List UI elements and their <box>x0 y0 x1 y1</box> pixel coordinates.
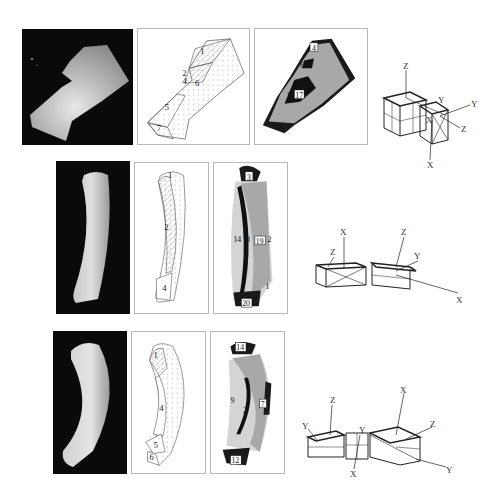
axis-label: Z <box>403 61 409 71</box>
region-label: 2 <box>268 235 272 244</box>
region-label: 17 <box>295 91 303 100</box>
axis-label: Y <box>438 95 445 105</box>
row3-segmentation-drawing: 1 4 5 6 <box>132 332 205 473</box>
seg-label: 7 <box>157 123 162 133</box>
row1-segmentation: 1 2 4 6 5 7 <box>137 28 250 145</box>
row3-box-model: Z X Y Y Z Y X <box>296 385 466 480</box>
row1-box-model: Z Y Y X Z X <box>370 60 480 170</box>
row1-range-image-shape <box>22 29 133 145</box>
seg-label: 1 <box>200 46 204 56</box>
region-label: 14 <box>233 235 241 244</box>
row2-range-image <box>56 161 130 314</box>
row3-segmentation: 1 4 5 6 <box>131 331 206 474</box>
region-label: 32 <box>275 123 283 132</box>
seg-label: 5 <box>165 102 170 112</box>
row1-segmentation-drawing: 1 2 4 6 5 7 <box>138 29 249 144</box>
row2-region-map: 3 14 8 19 2 1 20 <box>213 162 288 314</box>
row2-box-model-drawing: X Z Z Y X <box>300 225 470 315</box>
axis-label: Y <box>446 465 453 475</box>
axis-label: Z <box>330 247 336 257</box>
axis-label: Z <box>330 395 336 405</box>
region-label: 3 <box>247 173 251 182</box>
row2-region-map-drawing: 3 14 8 19 2 1 20 <box>214 163 287 313</box>
axis-label: Z <box>401 227 407 237</box>
region-label: 6 <box>300 61 304 70</box>
row1-box-model-drawing: Z Y Y X Z X <box>370 60 480 170</box>
row3-region-map: 14 9 2 7 12 <box>210 331 285 474</box>
row2-range-image-shape <box>56 161 130 314</box>
row3-box-model-drawing: Z X Y Y Z Y X <box>296 385 466 480</box>
region-label: 1 <box>266 282 270 291</box>
axis-label: X <box>400 385 407 395</box>
region-label: 2 <box>243 406 247 415</box>
seg-label: 2 <box>164 222 168 232</box>
region-label: 20 <box>242 299 250 308</box>
axis-label: X <box>350 469 357 479</box>
row2-segmentation-drawing: 1 2 4 <box>135 163 208 313</box>
region-label: 8 <box>246 235 250 244</box>
region-label: 12 <box>231 456 239 465</box>
axis-label: Y <box>359 425 366 435</box>
axis-label: X <box>340 227 347 237</box>
region-label: 9 <box>230 396 234 405</box>
seg-label: 1 <box>153 350 157 360</box>
seg-label: 5 <box>153 440 158 450</box>
axis-label: Z <box>430 419 436 429</box>
axis-label: X <box>456 295 463 305</box>
seg-label: 1 <box>168 170 172 180</box>
row2-box-model: X Z Z Y X <box>300 225 470 315</box>
seg-label: 4 <box>162 283 167 293</box>
row1-range-image <box>22 29 133 145</box>
axis-label: X <box>426 115 433 125</box>
axis-label: Y <box>471 99 478 109</box>
region-label: 14 <box>236 343 244 352</box>
axis-label: Y <box>302 421 309 431</box>
row1-region-map-drawing: 4 6 16 17 32 <box>255 29 367 144</box>
region-label: 4 <box>312 44 316 53</box>
row3-region-map-drawing: 14 9 2 7 12 <box>211 332 284 473</box>
seg-label: 6 <box>195 78 200 88</box>
seg-label: 4 <box>159 403 164 413</box>
seg-label: 6 <box>150 452 155 462</box>
region-label: 19 <box>256 237 264 246</box>
axis-label: Y <box>414 251 421 261</box>
row1-region-map: 4 6 16 17 32 <box>254 28 368 145</box>
row3-range-image <box>53 331 127 474</box>
row3-range-image-shape <box>53 331 127 474</box>
region-label: 7 <box>261 400 265 409</box>
region-label: 16 <box>286 91 294 100</box>
row2-segmentation: 1 2 4 <box>134 162 209 314</box>
axis-label: Z <box>461 124 467 134</box>
axis-label: X <box>427 160 434 170</box>
seg-label: 4 <box>182 76 187 86</box>
